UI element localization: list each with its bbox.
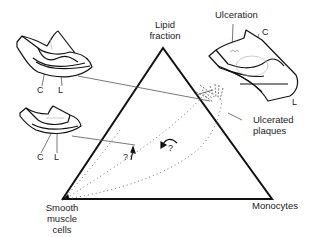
label-l-upper-left: L: [58, 85, 63, 96]
ulcerated-line2: plaques: [253, 125, 294, 136]
label-c-upper-left: C: [37, 85, 44, 96]
ulcerated-line1: Ulcerated: [253, 114, 294, 125]
label-ulcerated-plaques: Ulcerated plaques: [253, 114, 294, 136]
inset-upper-left: [17, 31, 92, 77]
inset-lower-left: [20, 106, 81, 133]
dotted-pathway: [66, 92, 222, 198]
vertex-label-smooth-muscle-cells: Smooth muscle cells: [40, 202, 84, 235]
label-l-lower-left: L: [54, 152, 59, 163]
label-c-lower-left: C: [37, 152, 44, 163]
inset-upper-right: [209, 30, 298, 101]
question-mark-curved: ?: [168, 143, 173, 154]
vertex-label-monocytes: Monocytes: [252, 200, 298, 211]
lipid-line1: Lipid: [143, 19, 187, 30]
lipid-line2: fraction: [143, 30, 187, 41]
vertex-label-lipid: Lipid fraction: [143, 19, 187, 41]
label-ulceration: Ulceration: [215, 9, 258, 20]
label-l-upper-right: L: [292, 97, 297, 108]
smc-line1: Smooth: [40, 202, 84, 213]
question-mark-up: ?: [123, 152, 128, 163]
smc-line2: muscle: [40, 213, 84, 224]
smc-line3: cells: [40, 224, 84, 235]
label-c-upper-right: C: [262, 27, 269, 38]
